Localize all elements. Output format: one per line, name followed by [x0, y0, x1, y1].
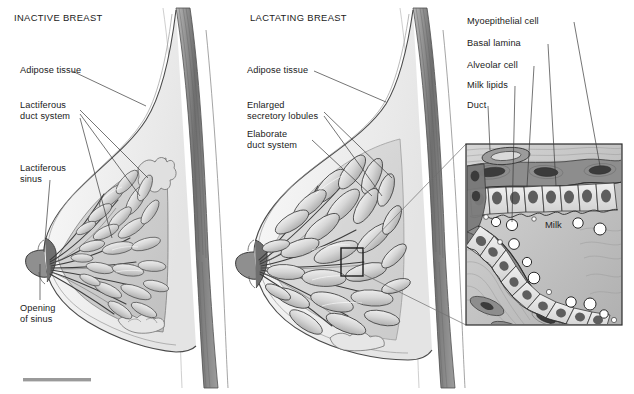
nipple-inactive: [26, 250, 47, 277]
label-myoepithelial-cell: Myoepithelial cell: [467, 16, 539, 27]
nipple-lactating: [236, 252, 257, 279]
diagram-artwork: [0, 0, 634, 394]
label-lactiferous-duct-system: Lactiferous duct system: [20, 100, 70, 123]
scale-bar: [23, 378, 91, 381]
label-opening-of-sinus: Opening of sinus: [20, 303, 55, 326]
label-enlarged-secretory-lobules: Enlarged secretory lobules: [247, 100, 318, 123]
label-lactiferous-sinus: Lactiferous sinus: [20, 163, 66, 186]
panel-title-lactating: LACTATING BREAST: [250, 12, 347, 23]
breast-anatomy-figure: INACTIVE BREAST LACTATING BREAST Adipose…: [0, 0, 634, 394]
label-duct: Duct: [467, 100, 486, 111]
label-basal-lamina: Basal lamina: [467, 38, 521, 49]
label-adipose-tissue-inactive: Adipose tissue: [20, 65, 81, 76]
alveolus-inset-panel: [466, 144, 622, 342]
label-adipose-tissue-lactating: Adipose tissue: [247, 65, 308, 76]
panel-title-inactive: INACTIVE BREAST: [14, 12, 103, 23]
label-alveolar-cell: Alveolar cell: [467, 60, 518, 71]
label-milk-lumen: Milk: [545, 219, 562, 230]
label-elaborate-duct-system: Elaborate duct system: [247, 129, 297, 152]
alveolar-cells-upper: [470, 183, 617, 216]
label-milk-lipids: Milk lipids: [467, 80, 508, 91]
